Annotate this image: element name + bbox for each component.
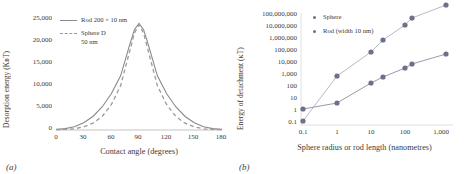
panel-b-point-sphere — [368, 49, 373, 54]
panel-a-x-axis-title: Contact angle (degrees) — [56, 147, 222, 156]
panel-b-y-tick-10: 10 — [245, 94, 297, 102]
panel-b-y-tick-0-1: 0.1 — [245, 118, 297, 126]
panel-a-y-tick-0: 0 — [18, 124, 52, 132]
panel-a-legend-label-sphere: Sphere D — [81, 29, 106, 36]
panel-a-legend-swatch-rod — [60, 20, 77, 21]
panel-a-legend-label-rod: Rod 200 × 10 nm — [81, 16, 127, 23]
panel-b-y-tick-100: 100 — [245, 82, 297, 90]
panel-b-line-sphere — [303, 5, 446, 121]
panel-b-y-tick-1e5: 100,000 — [245, 46, 297, 54]
panel-a-x-tick-60: 60 — [101, 133, 121, 141]
panel-a-y-tick-5000: 5,000 — [18, 102, 52, 110]
panel-b-y-tick-1: 1 — [245, 106, 297, 114]
panel-b-point-sphere — [334, 73, 339, 78]
panel-b-x-axis-title: Sphere radius or rod length (nanometres) — [267, 143, 462, 152]
panel-a-x-tick-180: 180 — [211, 133, 231, 141]
panel-b-point-rod — [334, 100, 339, 105]
panel-a-legend-swatch-sphere — [60, 33, 77, 34]
panel-a-y-tick-20000: 20,000 — [18, 36, 52, 44]
panel-b-x-tick-10: 10 — [361, 128, 381, 136]
figure-container: Desorption energy (KʙT) 25,000 20,000 15… — [0, 0, 467, 174]
panel-a-y-tick-10000: 10,000 — [18, 80, 52, 88]
panel-b-line-rod — [303, 54, 446, 109]
panel-a-x-tick-30: 30 — [73, 133, 93, 141]
panel-a-y-tick-25000: 25,000 — [18, 14, 52, 22]
panel-b-y-tick-1e3: 1,000 — [245, 70, 297, 78]
panel-a-x-tick-0: 0 — [46, 133, 66, 141]
panel-b-point-sphere — [443, 2, 448, 7]
panel-b-point-rod — [300, 106, 305, 111]
panel-b-x-tick-100: 100 — [395, 128, 415, 136]
panel-b-y-tick-1e4: 10,000 — [245, 58, 297, 66]
panel-b: Energy of detachment (ᴋT) 100,000,000 10… — [233, 0, 466, 174]
panel-a-x-tick-120: 120 — [156, 133, 176, 141]
panel-a-legend-label-sphere-size: 50 nm — [81, 38, 98, 45]
panel-b-x-tick-1000: 1,000 — [429, 128, 453, 136]
panel-b-y-axis-title: Energy of detachment (ᴋT) — [236, 22, 245, 130]
panel-b-point-rod — [380, 74, 385, 79]
panel-b-legend-label-sphere: Sphere — [323, 13, 341, 20]
panel-b-point-rod — [443, 51, 448, 56]
panel-b-label: (b) — [239, 162, 250, 172]
panel-a: Desorption energy (KʙT) 25,000 20,000 15… — [0, 0, 233, 174]
panel-b-point-rod — [409, 61, 414, 66]
panel-b-point-sphere — [409, 15, 414, 20]
panel-a-x-tick-90: 90 — [128, 133, 148, 141]
panel-b-point-sphere — [380, 37, 385, 42]
panel-b-point-sphere — [402, 22, 407, 27]
panel-b-y-tick-1e6: 1,000,000 — [245, 34, 297, 42]
panel-b-x-tick-1: 1 — [327, 128, 347, 136]
panel-b-point-rod — [368, 80, 373, 85]
panel-b-point-sphere — [300, 118, 305, 123]
panel-a-y-tick-15000: 15,000 — [18, 58, 52, 66]
panel-b-y-tick-1e8: 100,000,000 — [245, 10, 297, 18]
panel-a-y-axis-title: Desorption energy (KʙT) — [2, 24, 11, 128]
panel-b-legend-label-rod: Rod (width 10 nm) — [323, 27, 373, 34]
panel-b-x-tick-0-1: 0.1 — [293, 128, 313, 136]
panel-b-point-rod — [402, 65, 407, 70]
panel-a-label: (a) — [6, 162, 17, 172]
panel-a-x-tick-150: 150 — [183, 133, 203, 141]
panel-b-y-tick-1e7: 10,000,000 — [245, 22, 297, 30]
